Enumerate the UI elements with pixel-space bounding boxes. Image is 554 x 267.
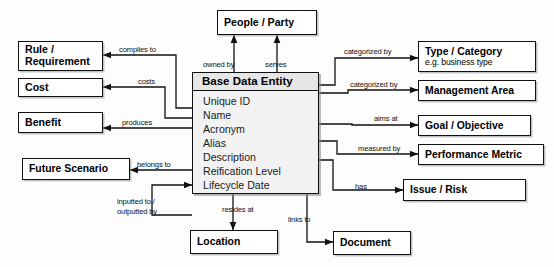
edge-label-produces: produces <box>122 118 152 127</box>
node-benefit[interactable]: Benefit <box>18 112 103 133</box>
edge-label-has: has <box>355 182 367 191</box>
entity-attr: Unique ID <box>203 95 318 109</box>
entity-attr: Reification Level <box>203 165 318 179</box>
node-rule-requirement-label-line2: Requirement <box>25 56 102 68</box>
node-type-category-sublabel: e.g. business type <box>425 58 535 68</box>
node-management-area[interactable]: Management Area <box>418 80 536 101</box>
node-location-label: Location <box>197 236 277 248</box>
node-document-label: Document <box>340 237 410 249</box>
entity-attr: Lifecycle Date <box>203 179 318 193</box>
entity-attr: Alias <box>203 137 318 151</box>
edge-label-links-to: links to <box>288 215 310 224</box>
edge-categorized-by-2-line <box>319 90 418 93</box>
entity-attr: Acronym <box>203 123 318 137</box>
edge-label-complies-to: complies to <box>119 45 156 54</box>
edge-costs-line <box>103 87 192 118</box>
edge-label-categorized-by-1: categorized by <box>344 47 391 56</box>
node-people-party-label: People / Party <box>224 17 316 29</box>
edge-aims-at-line <box>319 124 418 125</box>
edge-label-inputted-outputted-line1: inputted to / <box>117 197 155 206</box>
node-future-scenario[interactable]: Future Scenario <box>22 158 130 180</box>
entity-attr: Description <box>203 151 318 165</box>
node-location[interactable]: Location <box>190 230 278 254</box>
node-benefit-label: Benefit <box>25 117 102 129</box>
edge-inputted-outputted-line <box>152 185 192 215</box>
node-cost-label: Cost <box>25 82 102 94</box>
node-type-category[interactable]: Type / Category e.g. business type <box>418 41 536 72</box>
edge-label-inputted-outputted-line2: outputted by <box>117 207 157 216</box>
edge-label-serves: serves <box>265 60 286 69</box>
node-management-area-label: Management Area <box>425 85 535 97</box>
node-performance-metric[interactable]: Performance Metric <box>418 144 544 165</box>
entity-attr: Name <box>203 109 318 123</box>
node-people-party[interactable]: People / Party <box>217 10 317 35</box>
edge-label-owned-by: owned by <box>203 60 234 69</box>
edge-label-measured-by: measured by <box>358 144 400 153</box>
node-issue-risk-label: Issue / Risk <box>410 184 525 196</box>
central-entity[interactable]: Base Data Entity Unique ID Name Acronym … <box>192 72 319 194</box>
node-document[interactable]: Document <box>333 231 411 255</box>
node-future-scenario-label: Future Scenario <box>29 163 129 175</box>
edge-label-aims-at: aims at <box>374 114 397 123</box>
node-type-category-label: Type / Category <box>425 46 535 58</box>
edge-label-categorized-by-2: categorized by <box>350 80 397 89</box>
edge-label-resides-at: resides at <box>222 205 253 214</box>
diagram-canvas: People / Party Rule / Requirement Cost B… <box>0 0 554 267</box>
node-rule-requirement[interactable]: Rule / Requirement <box>18 41 103 71</box>
node-goal-objective[interactable]: Goal / Objective <box>418 115 531 136</box>
central-entity-attributes: Unique ID Name Acronym Alias Description… <box>193 91 318 197</box>
central-entity-title: Base Data Entity <box>193 73 318 91</box>
edge-label-belongs-to: belongs to <box>137 160 171 169</box>
node-cost[interactable]: Cost <box>18 78 103 97</box>
node-performance-metric-label: Performance Metric <box>425 149 543 161</box>
edge-label-costs: costs <box>138 77 155 86</box>
node-issue-risk[interactable]: Issue / Risk <box>403 179 526 201</box>
edge-links-to-line <box>307 194 333 242</box>
node-goal-objective-label: Goal / Objective <box>425 120 530 132</box>
